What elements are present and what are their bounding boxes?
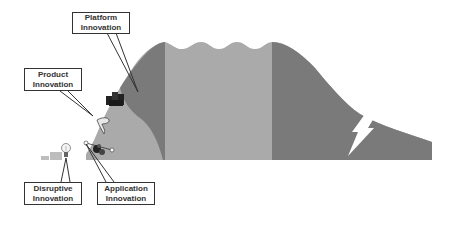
label-disruptive-line2: Innovation [33,194,73,204]
label-disruptive-line1: Disruptive [33,184,72,194]
mountain-dark-right [272,42,432,160]
label-application-innovation: Application Innovation [97,182,155,205]
label-platform-line2: Innovation [81,23,121,33]
label-product-line1: Product [38,70,68,80]
label-disruptive-innovation: Disruptive Innovation [24,182,82,205]
steps [41,152,62,160]
label-platform-line1: Platform [85,13,117,23]
factory-icon [106,92,124,106]
label-application-line2: Innovation [106,194,146,204]
label-application-line1: Application [104,184,148,194]
label-product-line2: Innovation [33,80,73,90]
label-platform-innovation: Platform Innovation [72,12,130,34]
lightbulb-icon [62,144,71,158]
label-product-innovation: Product Innovation [24,68,82,91]
